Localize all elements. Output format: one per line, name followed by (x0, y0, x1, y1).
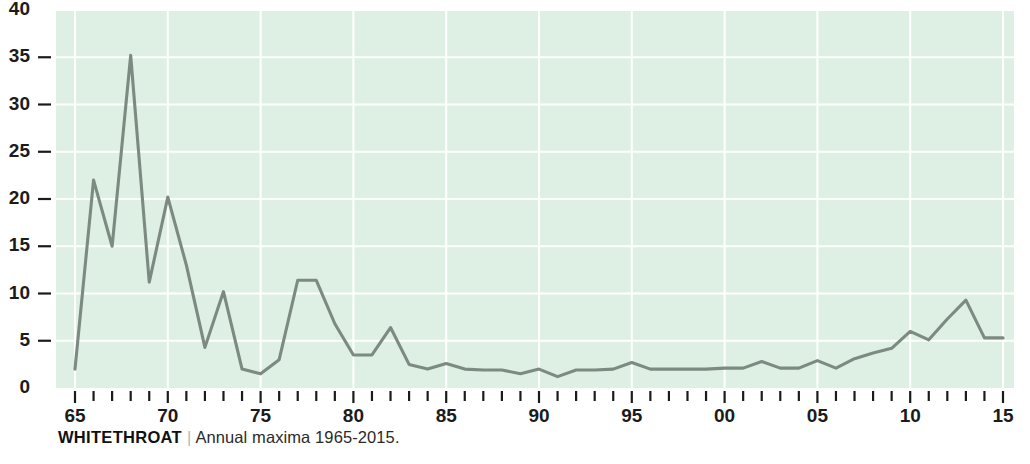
x-tick-label-1990: 90 (528, 405, 549, 426)
line-chart: 0510152025303540 6570758085909500051015 (0, 0, 1030, 464)
y-tick-label-35: 35 (9, 45, 31, 66)
y-tick-label-30: 30 (9, 93, 30, 114)
y-tick-label-15: 15 (9, 234, 31, 255)
x-tick-label-1975: 75 (250, 405, 272, 426)
y-tick-label-0: 0 (19, 376, 30, 397)
x-tick-label-2005: 05 (807, 405, 829, 426)
x-tick-label-2015: 15 (992, 405, 1014, 426)
caption-title: WHITETHROAT (58, 428, 182, 446)
x-tick-label-1965: 65 (64, 405, 86, 426)
y-tick-label-40: 40 (9, 0, 30, 19)
x-tick-label-1980: 80 (343, 405, 364, 426)
x-axis-tick-labels: 6570758085909500051015 (64, 405, 1014, 426)
figure-caption: WHITETHROAT|Annual maxima 1965-2015. (58, 428, 400, 447)
x-tick-label-2010: 10 (900, 405, 921, 426)
caption-separator: | (182, 428, 195, 446)
y-axis-tick-marks (38, 57, 51, 341)
y-tick-label-5: 5 (19, 329, 30, 350)
x-axis-tick-marks (75, 391, 1003, 403)
y-tick-label-10: 10 (9, 282, 30, 303)
y-tick-label-25: 25 (9, 140, 31, 161)
y-axis-tick-labels: 0510152025303540 (9, 0, 31, 397)
x-tick-label-1995: 95 (621, 405, 643, 426)
x-tick-label-1970: 70 (157, 405, 178, 426)
y-tick-label-20: 20 (9, 187, 30, 208)
x-tick-label-2000: 00 (714, 405, 735, 426)
chart-figure: 0510152025303540 6570758085909500051015 … (0, 0, 1030, 464)
caption-description: Annual maxima 1965-2015. (195, 428, 399, 446)
x-tick-label-1985: 85 (436, 405, 458, 426)
